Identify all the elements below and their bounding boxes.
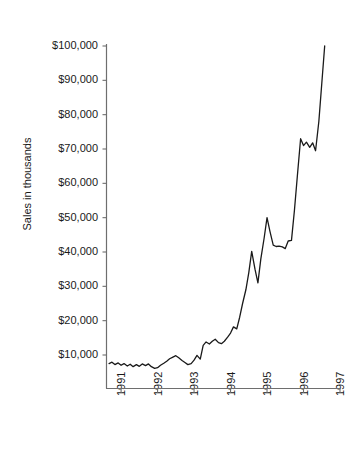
axis-lines xyxy=(106,44,340,389)
sales-line-series xyxy=(109,46,325,368)
chart-plot-svg xyxy=(0,0,360,452)
chart-container: Sales in thousands $10,000$20,000$30,000… xyxy=(0,0,360,452)
x-axis-ticks xyxy=(121,389,340,394)
